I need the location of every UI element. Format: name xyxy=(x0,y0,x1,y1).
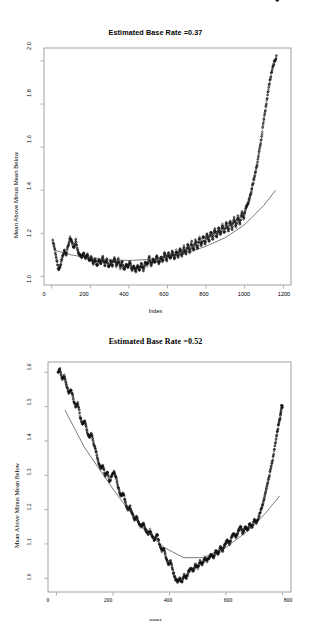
chart-panel-2: Estimated Base Rate =0.52 Mean Above Min… xyxy=(0,320,311,627)
chart-panel-1: Estimated Base Rate =0.37 Mean Above Min… xyxy=(0,0,311,320)
chart-2-x-axis-label: Index xyxy=(0,619,311,622)
chart-2-plot-area xyxy=(0,320,311,627)
chart-1-plot-area xyxy=(0,0,311,320)
chart-2-x-axis-label-clipped: Index xyxy=(0,619,311,627)
figure-page: Estimated Base Rate =0.37 Mean Above Min… xyxy=(0,0,311,627)
